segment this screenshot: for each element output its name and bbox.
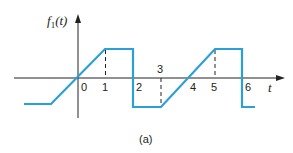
tick-label-3: 3: [157, 63, 163, 75]
waveform-figure: 0 1 2 3 4 5 6 t f1(t) (a): [0, 0, 293, 153]
y-label-arg: (t): [55, 13, 67, 28]
tick-label-1: 1: [102, 81, 108, 93]
tick-label-6: 6: [245, 81, 251, 93]
tick-label-2: 2: [136, 81, 142, 93]
tick-label-0: 0: [81, 81, 87, 93]
y-axis-label: f1(t): [47, 13, 67, 30]
tick-label-5: 5: [211, 81, 217, 93]
tick-label-4: 4: [190, 81, 196, 93]
x-axis-arrow-icon: [276, 75, 285, 81]
x-axis-label: t: [268, 80, 272, 95]
y-axis-arrow-icon: [75, 14, 81, 23]
figure-caption: (a): [139, 133, 152, 145]
